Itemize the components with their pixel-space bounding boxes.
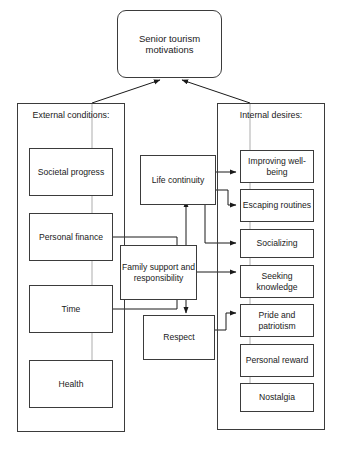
node-escaping-routines[interactable]: Escaping routines (240, 189, 314, 222)
edge-external-to-root (92, 80, 160, 103)
node-seeking-knowledge[interactable]: Seeking knowledge (240, 265, 314, 298)
panel-internal-title: Internal desires: (217, 110, 325, 120)
node-life-continuity[interactable]: Life continuity (140, 155, 216, 205)
edge-internal-to-root (182, 80, 250, 103)
node-nostalgia[interactable]: Nostalgia (240, 383, 314, 412)
node-improving-well-being[interactable]: Improving well-being (240, 150, 314, 183)
node-societal-progress[interactable]: Societal progress (29, 148, 113, 196)
diagram-canvas: Senior tourism motivations External cond… (0, 0, 340, 450)
node-respect[interactable]: Respect (143, 315, 215, 360)
node-socializing[interactable]: Socializing (240, 229, 314, 258)
panel-external-title: External conditions: (17, 110, 125, 120)
node-personal-reward[interactable]: Personal reward (240, 344, 314, 377)
node-time[interactable]: Time (29, 285, 113, 333)
node-pride-and-patriotism[interactable]: Pride and patriotism (240, 304, 314, 337)
node-personal-finance[interactable]: Personal finance (29, 213, 113, 261)
root-node-label: Senior tourism motivations (118, 33, 221, 55)
root-node[interactable]: Senior tourism motivations (117, 10, 222, 78)
node-health[interactable]: Health (29, 360, 113, 408)
node-family-support-and-responsibility[interactable]: Family support and responsibility (120, 245, 197, 300)
